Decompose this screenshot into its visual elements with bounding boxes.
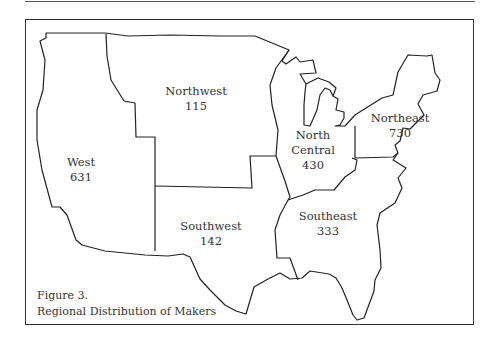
region-value: 631 <box>67 170 95 185</box>
region-label-west: West 631 <box>67 155 95 185</box>
region-value: 730 <box>371 126 430 141</box>
region-label-southwest: Southwest 142 <box>180 219 241 249</box>
region-value: 430 <box>291 158 335 173</box>
region-name: West <box>67 155 95 170</box>
figure-number: Figure 3. <box>37 289 88 302</box>
region-value: 333 <box>299 224 357 239</box>
region-value: 142 <box>180 234 241 249</box>
region-label-northwest: Northwest 115 <box>165 84 227 114</box>
region-label-southeast: Southeast 333 <box>299 209 357 239</box>
region-name: Southeast <box>299 209 357 224</box>
figure-title: Regional Distribution of Makers <box>37 305 216 318</box>
region-name: Southwest <box>180 219 241 234</box>
region-value: 115 <box>165 99 227 114</box>
us-outline <box>37 33 440 320</box>
region-label-north-central: North Central 430 <box>291 128 335 173</box>
region-name: Northwest <box>165 84 227 99</box>
region-label-northeast: Northeast 730 <box>371 111 430 141</box>
region-name: Northeast <box>371 111 430 126</box>
region-name-line2: Central <box>291 143 335 158</box>
region-name-line1: North <box>291 128 335 143</box>
